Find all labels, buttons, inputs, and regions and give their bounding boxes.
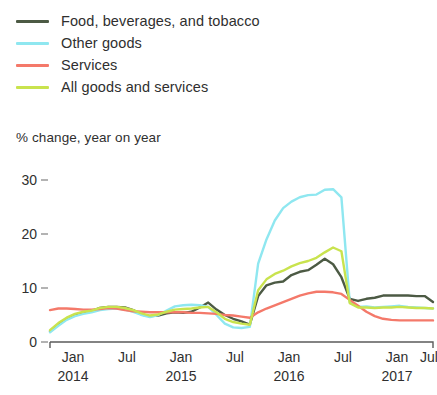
series-line: [50, 189, 433, 332]
x-tick-label: Jan: [386, 349, 409, 365]
legend-swatch-other-goods: [16, 42, 49, 45]
x-tick-label: Jul: [334, 349, 352, 365]
y-tick-label: 30: [21, 172, 37, 188]
y-tick-label: 20: [21, 226, 37, 242]
y-tick-label: 10: [21, 280, 37, 296]
legend-label-food-beverages-tobacco: Food, beverages, and tobacco: [61, 14, 260, 29]
legend-swatch-all-goods-and-services: [16, 86, 49, 89]
axis-baseline: [50, 342, 433, 348]
y-axis-title: % change, year on year: [16, 130, 161, 145]
x-tick-labels: JanJulJanJulJanJulJanJul: [62, 349, 437, 365]
y-tick-marks: [41, 180, 48, 342]
legend-label-other-goods: Other goods: [61, 36, 142, 51]
legend-item-other-goods: Other goods: [16, 32, 426, 54]
x-tick-label: Jul: [420, 349, 437, 365]
legend-item-all-goods-and-services: All goods and services: [16, 76, 426, 98]
legend-label-all-goods-and-services: All goods and services: [61, 80, 208, 95]
x-tick-label: Jul: [118, 349, 136, 365]
legend-label-services: Services: [61, 58, 117, 73]
x-tick-label: Jan: [170, 349, 193, 365]
series-line: [50, 259, 433, 331]
series-line: [50, 248, 433, 331]
legend-swatch-food-beverages-tobacco: [16, 20, 49, 23]
x-year-label: 2017: [381, 368, 412, 384]
x-axis-line: [50, 342, 433, 348]
x-tick-label: Jan: [62, 349, 85, 365]
chart-legend: Food, beverages, and tobacco Other goods…: [16, 10, 426, 98]
x-year-labels: 2014201520162017: [57, 368, 412, 384]
x-year-label: 2015: [165, 368, 196, 384]
legend-item-services: Services: [16, 54, 426, 76]
y-tick-label: 0: [29, 334, 37, 350]
series-line: [50, 292, 433, 321]
x-year-label: 2016: [273, 368, 304, 384]
x-tick-label: Jul: [226, 349, 244, 365]
legend-swatch-services: [16, 64, 49, 67]
legend-item-food-beverages-tobacco: Food, beverages, and tobacco: [16, 10, 426, 32]
y-tick-labels: 0102030: [21, 172, 37, 350]
x-year-label: 2014: [57, 368, 88, 384]
series-lines: [50, 189, 433, 332]
x-tick-label: Jan: [278, 349, 301, 365]
chart-figure: Food, beverages, and tobacco Other goods…: [0, 0, 437, 395]
